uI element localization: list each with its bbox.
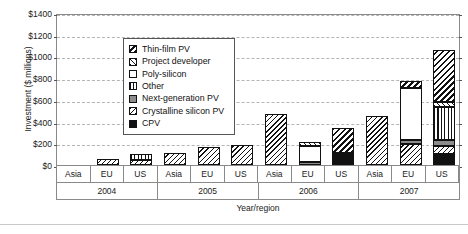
legend-item-label: Project developer (142, 57, 210, 66)
bar-segment-crystalline-silicon-pv (97, 159, 119, 166)
y-axis-tick-label: $1000 (6, 52, 52, 62)
y-axis-tick-mark (459, 102, 462, 103)
x-axis-region-label: EU (91, 166, 125, 182)
legend-item: Crystalline silicon PV (129, 105, 224, 117)
legend-item-label: CPV (142, 119, 160, 128)
legend-item: Thin-film PV (129, 43, 224, 55)
legend-item-label: Poly-silicon (142, 70, 187, 79)
legend-swatch-icon (129, 70, 137, 78)
footer-rule (0, 224, 468, 225)
bar-segment-crystalline-silicon-pv (400, 144, 422, 165)
y-axis-tick-mark (459, 37, 462, 38)
bar-2007-asia (366, 116, 388, 165)
bar-segment-crystalline-silicon-pv (130, 160, 152, 165)
legend-item-label: Other (142, 82, 164, 91)
bar-2005-us (231, 145, 253, 165)
x-axis-region-label: EU (191, 166, 225, 182)
y-axis-tick-mark (459, 80, 462, 81)
chart-legend: Thin-film PVProject developerPoly-silico… (123, 38, 235, 135)
bar-segment-crystalline-silicon-pv (164, 153, 186, 165)
legend-swatch-icon (129, 58, 137, 66)
legend-item: Next-generation PV (129, 93, 224, 105)
bar-2005-asia (164, 153, 186, 165)
bar-2005-eu (198, 147, 220, 165)
y-axis-tick-mark (459, 15, 462, 16)
bar-segment-poly-silicon (400, 88, 422, 140)
bar-segment-crystalline-silicon-pv (433, 146, 455, 154)
legend-swatch-icon (129, 45, 137, 53)
bar-segment-thin-film-pv (332, 128, 354, 153)
y-axis-tick-label: $1200 (6, 31, 52, 41)
bar-segment-other (433, 107, 455, 140)
x-axis-title: Year/region (56, 203, 460, 213)
legend-swatch-icon (129, 95, 137, 103)
x-axis-region-labels: AsiaEUUSAsiaEUUSAsiaEUUSAsiaEUUS (56, 166, 460, 183)
y-axis-tick-label: $1400 (6, 9, 52, 19)
x-axis-year-label: 2007 (359, 183, 459, 199)
y-axis-tick-label: $400 (6, 118, 52, 128)
bar-segment-crystalline-silicon-pv (265, 114, 287, 165)
bar-segment-thin-film-pv (400, 81, 422, 88)
bar-2006-asia (265, 114, 287, 165)
bar-2004-eu (97, 159, 119, 166)
legend-item: CPV (129, 117, 224, 129)
plot-area: Thin-film PVProject developerPoly-silico… (56, 14, 460, 166)
y-axis-tick-mark (459, 124, 462, 125)
legend-item-label: Crystalline silicon PV (142, 107, 224, 116)
y-axis-tick-mark (459, 145, 462, 146)
bar-segment-project-developer (433, 102, 455, 107)
bar-segment-other (130, 154, 152, 160)
x-axis-region-label: US (426, 166, 460, 182)
bar-2007-eu (400, 81, 422, 165)
x-axis-region-label: Asia (57, 166, 91, 182)
x-axis-region-label: Asia (258, 166, 292, 182)
y-axis-tick-labels: $0$200$400$600$800$1000$1200$1400 (6, 14, 52, 166)
bar-segment-cpv (332, 153, 354, 165)
bar-segment-thin-film-pv (433, 50, 455, 102)
x-axis-region-label: EU (392, 166, 426, 182)
bar-segment-next-generation-pv (299, 162, 321, 165)
legend-item: Other (129, 80, 224, 92)
chart-figure: Investment ($ millions) $0$200$400$600$8… (0, 0, 468, 234)
x-axis-region-label: EU (292, 166, 326, 182)
bar-segment-crystalline-silicon-pv (231, 145, 253, 165)
y-axis-tick-label: $800 (6, 74, 52, 84)
bar-2006-eu (299, 142, 321, 165)
bar-series-container (57, 15, 459, 165)
legend-item-label: Next-generation PV (142, 94, 219, 103)
legend-item: Project developer (129, 55, 224, 67)
bar-segment-project-developer (299, 142, 321, 146)
legend-swatch-icon (129, 82, 137, 90)
y-axis-tick-label: $200 (6, 139, 52, 149)
bar-2007-us (433, 50, 455, 165)
legend-swatch-icon (129, 107, 137, 115)
bar-segment-cpv (433, 154, 455, 165)
bar-segment-next-generation-pv (400, 140, 422, 144)
x-axis-year-label: 2004 (57, 183, 158, 199)
legend-item: Poly-silicon (129, 68, 224, 80)
bar-segment-crystalline-silicon-pv (198, 147, 220, 165)
bar-segment-poly-silicon (299, 146, 321, 162)
bar-2006-us (332, 128, 354, 165)
x-axis-region-label: US (225, 166, 259, 182)
y-axis-tick-label: $0 (6, 161, 52, 171)
x-axis-region-label: Asia (158, 166, 192, 182)
y-axis-tick-label: $600 (6, 96, 52, 106)
legend-swatch-icon (129, 120, 137, 128)
bar-2004-us (130, 154, 152, 165)
x-axis-year-labels: 2004200520062007 (56, 183, 460, 200)
x-axis-region-label: US (124, 166, 158, 182)
x-axis-year-label: 2005 (158, 183, 259, 199)
x-axis-region-label: Asia (359, 166, 393, 182)
legend-item-label: Thin-film PV (142, 45, 190, 54)
x-axis-region-label: US (325, 166, 359, 182)
bar-segment-next-generation-pv (433, 140, 455, 146)
bar-segment-crystalline-silicon-pv (366, 116, 388, 165)
x-axis-year-label: 2006 (259, 183, 360, 199)
y-axis-tick-mark (459, 58, 462, 59)
